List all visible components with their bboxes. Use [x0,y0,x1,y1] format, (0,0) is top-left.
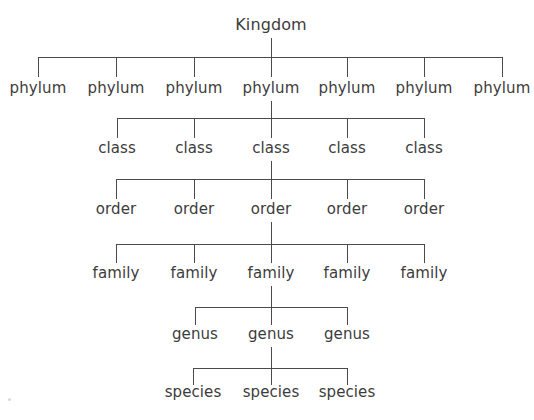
node-label-family-2: family [171,266,218,281]
node-label-phylum-5: phylum [319,81,376,96]
node-label-family-1: family [93,266,140,281]
connector-tick-family-5 [424,244,425,263]
node-label-family-5: family [401,266,448,281]
connector-bar-family [116,244,424,245]
connector-tick-family-3 [271,244,272,263]
node-label-class-1: class [98,141,136,156]
connector-tick-order-4 [347,179,348,199]
node-label-genus-2: genus [248,327,294,342]
connector-tick-phylum-4 [271,57,272,77]
connector-tick-phylum-6 [424,57,425,77]
node-label-class-5: class [405,141,443,156]
connector-tick-phylum-1 [38,57,39,77]
connector-tick-order-5 [424,179,425,199]
node-label-phylum-6: phylum [396,81,453,96]
artifact-speck [8,398,11,401]
connector-tick-phylum-2 [116,57,117,77]
node-label-species-3: species [319,385,376,400]
node-label-order-4: order [327,202,368,217]
node-label-order-1: order [96,202,137,217]
node-label-species-2: species [243,385,300,400]
node-label-kingdom: Kingdom [235,17,306,33]
connector-bar-phylum [38,57,502,58]
node-label-phylum-2: phylum [88,81,145,96]
connector-tick-phylum-5 [347,57,348,77]
connector-tick-family-2 [194,244,195,263]
connector-stem-species [271,347,272,368]
node-label-phylum-1: phylum [10,81,67,96]
connector-tick-genus-1 [195,307,196,325]
connector-tick-class-3 [271,118,272,138]
connector-tick-phylum-7 [502,57,503,77]
connector-bar-species [193,368,347,369]
connector-tick-genus-2 [271,307,272,325]
node-label-genus-3: genus [324,327,370,342]
connector-tick-class-5 [424,118,425,138]
node-label-class-2: class [175,141,213,156]
connector-stem-phylum [271,38,272,57]
connector-tick-order-2 [194,179,195,199]
connector-stem-family [271,222,272,244]
connector-tick-genus-3 [347,307,348,325]
connector-tick-phylum-3 [194,57,195,77]
connector-tick-family-4 [347,244,348,263]
node-label-phylum-7: phylum [474,81,531,96]
connector-tick-class-1 [117,118,118,138]
node-label-family-4: family [324,266,371,281]
node-label-order-5: order [404,202,445,217]
connector-bar-order [116,179,424,180]
connector-stem-order [271,161,272,179]
node-label-species-1: species [165,385,222,400]
node-label-order-3: order [251,202,292,217]
connector-tick-family-1 [116,244,117,263]
connector-stem-class [271,101,272,118]
connector-tick-order-1 [116,179,117,199]
connector-tick-class-4 [347,118,348,138]
connector-tick-class-2 [194,118,195,138]
taxonomy-diagram: Kingdom phylumphylumphylumphylumphylumph… [0,0,534,420]
node-label-class-3: class [252,141,290,156]
node-label-phylum-4: phylum [243,81,300,96]
connector-tick-order-3 [271,179,272,199]
connector-stem-genus [271,286,272,307]
node-label-class-4: class [328,141,366,156]
node-label-genus-1: genus [172,327,218,342]
node-label-order-2: order [174,202,215,217]
node-label-family-3: family [248,266,295,281]
node-label-phylum-3: phylum [166,81,223,96]
